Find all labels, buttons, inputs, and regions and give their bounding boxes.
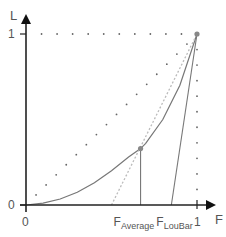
equality-diagonal-dot: [75, 154, 77, 156]
y-axis-label: L: [10, 8, 17, 23]
equality-diagonal-dot: [106, 124, 108, 126]
right-border-dot: [196, 189, 198, 191]
equality-diagonal-dot: [35, 194, 37, 196]
top-border-dot: [87, 33, 89, 35]
top-border-dot: [181, 33, 183, 35]
right-border-dot: [196, 173, 198, 175]
equality-diagonal-dot: [126, 104, 128, 106]
equality-diagonal-dot: [136, 93, 138, 95]
top-border-dot: [72, 33, 74, 35]
right-border-dot: [196, 64, 198, 66]
equality-diagonal-dot: [96, 134, 98, 136]
series-right-border: [196, 33, 198, 190]
right-border-dot: [196, 126, 198, 128]
equality-diagonal-dot: [166, 63, 168, 65]
equality-diagonal-dot: [116, 114, 118, 116]
top-border-dot: [41, 33, 43, 35]
equality-diagonal-dot: [156, 73, 158, 75]
x-tick-label: 1: [194, 215, 201, 229]
right-border-dot: [196, 111, 198, 113]
x-tick-label: FAverage: [114, 215, 155, 231]
series-lorenz-curve: [26, 34, 197, 205]
equality-diagonal-dot: [65, 164, 67, 166]
equality-diagonal-dot: [85, 144, 87, 146]
top-border-dot: [149, 33, 151, 35]
y-tick-label: 1: [8, 27, 15, 41]
x-tick-label: 0: [22, 215, 29, 229]
lorenz-chart: 0FAverageFLouBar101 F L: [0, 0, 226, 237]
right-border-dot: [196, 157, 198, 159]
top-border-dot: [56, 33, 58, 35]
top-border-dot: [118, 33, 120, 35]
series-equality-diagonal: [25, 33, 198, 206]
x-axis-label: F: [215, 212, 223, 227]
top-border-dot: [165, 33, 167, 35]
right-border-dot: [196, 80, 198, 82]
top-border-dot: [134, 33, 136, 35]
equality-diagonal-dot: [186, 43, 188, 45]
right-border-dot: [196, 49, 198, 51]
equality-diagonal-dot: [146, 83, 148, 85]
average-point: [138, 146, 143, 151]
x-tick-label: FLouBar: [156, 215, 192, 231]
top-border-dot: [103, 33, 105, 35]
equality-diagonal-dot: [55, 174, 57, 176]
right-border-dot: [196, 95, 198, 97]
top-right-point: [194, 31, 199, 36]
series-top-border: [41, 33, 198, 35]
y-tick-label: 0: [8, 198, 15, 212]
right-border-dot: [196, 142, 198, 144]
equality-diagonal-dot: [45, 184, 47, 186]
equality-diagonal-dot: [176, 53, 178, 55]
